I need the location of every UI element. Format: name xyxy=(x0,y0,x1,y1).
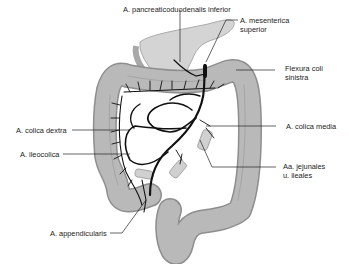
ileum-stubs xyxy=(134,129,213,180)
label-colica-dextra: A. colica dextra xyxy=(16,126,67,135)
label-mesenterica-line2: superior xyxy=(240,25,267,34)
label-mesenterica-line1: A. mesenterica xyxy=(240,16,289,25)
label-appendicularis: A. appendicularis xyxy=(50,229,107,238)
label-jejunales-line2: u. ileales xyxy=(283,171,312,180)
label-ileocolica: A. ileocolica xyxy=(20,150,59,159)
label-flexura-line1: Flexura coli xyxy=(285,64,323,73)
label-pancreaticoduodenalis: A. pancreaticoduodenalis inferior xyxy=(123,5,231,14)
label-colica-media: A. colica media xyxy=(286,122,336,131)
label-jejunales-line1: Aa. jejunales xyxy=(283,162,325,171)
label-flexura-line2: sinistra xyxy=(285,73,308,82)
colon-artery-diagram: A. pancreaticoduodenalis inferior A. mes… xyxy=(0,0,349,264)
